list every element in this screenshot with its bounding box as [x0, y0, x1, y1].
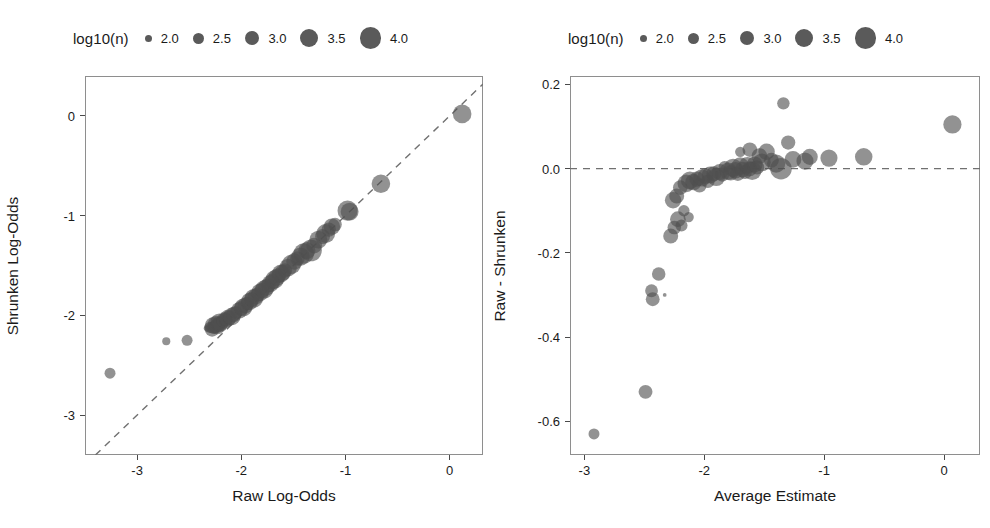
scatter-point — [105, 368, 116, 379]
scatter-point — [943, 115, 961, 133]
scatter-point — [675, 219, 687, 231]
x-tick-label: -2 — [698, 463, 710, 478]
plot-area-left: -3-2-100-1-2-3Raw Log-OddsShrunken Log-O… — [0, 0, 495, 528]
scatter-point — [328, 218, 342, 232]
y-tick-mark — [80, 115, 85, 116]
scatter-point — [663, 293, 667, 297]
scatter-point — [341, 203, 359, 221]
y-tick-mark — [565, 84, 570, 85]
x-tick-mark — [824, 455, 825, 460]
scatter-point — [372, 174, 391, 193]
x-tick-label: -1 — [340, 463, 352, 478]
x-tick-label: -3 — [131, 463, 143, 478]
y-tick-mark — [80, 415, 85, 416]
y-tick-label: 0.0 — [495, 161, 560, 176]
y-tick-label: 0 — [0, 108, 75, 123]
y-tick-mark — [565, 421, 570, 422]
x-tick-label: -3 — [579, 463, 591, 478]
x-tick-label: -2 — [236, 463, 248, 478]
scatter-point — [182, 335, 193, 346]
scatter-point — [802, 149, 818, 165]
scatter-canvas — [0, 0, 495, 528]
y-tick-mark — [565, 337, 570, 338]
x-tick-mark — [449, 455, 450, 460]
y-tick-label: -3 — [0, 408, 75, 423]
scatter-point — [588, 428, 599, 439]
scatter-point — [855, 148, 873, 166]
x-axis-title: Average Estimate — [714, 487, 836, 505]
y-axis-title: Shrunken Log-Odds — [4, 196, 22, 335]
x-tick-label: -1 — [818, 463, 830, 478]
x-axis-title: Raw Log-Odds — [232, 487, 335, 505]
y-axis-title: Raw - Shrunken — [491, 210, 509, 321]
x-tick-mark — [944, 455, 945, 460]
figure-container: log10(n) 2.02.53.03.54.0 -3-2-100-1-2-3R… — [0, 0, 990, 528]
x-tick-mark — [137, 455, 138, 460]
x-tick-mark — [584, 455, 585, 460]
plot-area-right: -3-2-100.20.0-0.2-0.4-0.6Average Estimat… — [495, 0, 990, 528]
x-tick-mark — [704, 455, 705, 460]
scatter-point — [684, 212, 694, 222]
x-tick-mark — [241, 455, 242, 460]
y-tick-label: -0.6 — [495, 414, 560, 429]
scatter-point — [652, 267, 666, 281]
panel-left: log10(n) 2.02.53.03.54.0 -3-2-100-1-2-3R… — [0, 0, 495, 528]
y-tick-mark — [80, 315, 85, 316]
scatter-point — [162, 337, 170, 345]
scatter-point — [639, 385, 653, 399]
scatter-point — [777, 97, 789, 109]
y-tick-mark — [565, 252, 570, 253]
scatter-canvas — [495, 0, 990, 528]
x-tick-label: 0 — [446, 463, 453, 478]
y-tick-mark — [565, 168, 570, 169]
y-tick-label: 0.2 — [495, 77, 560, 92]
scatter-point — [453, 105, 472, 124]
scatter-point — [820, 150, 837, 167]
scatter-point — [781, 135, 795, 149]
scatter-point — [645, 284, 658, 297]
panel-right: log10(n) 2.02.53.03.54.0 -3-2-100.20.0-0… — [495, 0, 990, 528]
y-tick-label: -0.4 — [495, 330, 560, 345]
y-tick-mark — [80, 215, 85, 216]
x-tick-label: 0 — [940, 463, 947, 478]
x-tick-mark — [345, 455, 346, 460]
